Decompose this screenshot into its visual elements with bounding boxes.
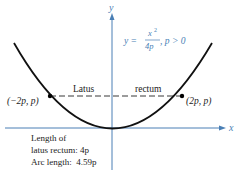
left-point-label: (−2p, p) bbox=[7, 96, 39, 107]
right-point-label: (2p, p) bbox=[186, 96, 211, 107]
equation: y = x 2 4p , p > 0 bbox=[123, 27, 186, 51]
right-endpoint bbox=[180, 94, 184, 98]
parabola-diagram: x y y = x 2 4p , p > 0 Latus rectum (−2p… bbox=[0, 0, 241, 177]
equation-numerator: x bbox=[147, 28, 152, 38]
left-endpoint bbox=[48, 94, 52, 98]
y-axis-arrow-icon bbox=[110, 13, 115, 20]
notes: Length of latus rectum: 4p Arc length: 4… bbox=[31, 133, 97, 167]
latus-label-left: Latus bbox=[73, 84, 94, 94]
y-axis-label: y bbox=[108, 2, 114, 13]
x-axis-arrow-icon bbox=[219, 126, 226, 131]
equation-condition: , p > 0 bbox=[160, 36, 186, 46]
equation-lhs: y = bbox=[123, 36, 137, 46]
equation-denominator: 4p bbox=[145, 41, 154, 51]
note-line-1: Length of bbox=[31, 133, 66, 143]
equation-exponent: 2 bbox=[154, 27, 157, 33]
latus-label-right: rectum bbox=[135, 84, 162, 94]
note-line-3: Arc length: 4.59p bbox=[31, 157, 97, 167]
note-line-2: latus rectum: 4p bbox=[31, 145, 89, 155]
x-axis-label: x bbox=[228, 122, 234, 133]
y-axis bbox=[110, 13, 115, 170]
parabola-curve bbox=[14, 43, 212, 129]
